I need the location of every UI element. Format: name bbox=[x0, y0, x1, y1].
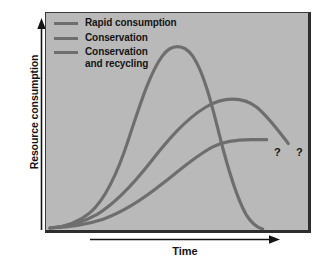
x-axis-arrow-icon bbox=[90, 234, 280, 245]
question-mark-conservation: ? bbox=[296, 146, 303, 158]
x-axis: Time bbox=[90, 234, 280, 264]
curve-rapid-consumption bbox=[50, 47, 263, 229]
legend-item-label: Conservation bbox=[85, 32, 148, 44]
legend-item-label: Rapid consumption bbox=[85, 17, 177, 29]
y-axis-title: Resource consumption bbox=[28, 6, 40, 218]
curve-conservation bbox=[50, 99, 288, 228]
legend-item-label: Conservation and recycling bbox=[85, 46, 148, 69]
legend-line-swatch-icon bbox=[54, 51, 78, 54]
legend: Rapid consumption Conservation Conservat… bbox=[54, 17, 224, 72]
legend-line-swatch-icon bbox=[54, 37, 78, 40]
question-mark-recycling: ? bbox=[274, 146, 281, 158]
plot-area: Rapid consumption Conservation Conservat… bbox=[45, 12, 311, 233]
legend-item-rapid-consumption: Rapid consumption bbox=[54, 17, 224, 29]
legend-item-conservation: Conservation bbox=[54, 32, 224, 44]
x-axis-title: Time bbox=[90, 245, 280, 257]
y-axis: Resource consumption bbox=[0, 18, 45, 230]
chart-figure: Resource consumption Rapid consumption C… bbox=[0, 0, 329, 266]
legend-item-conservation-and-recycling: Conservation and recycling bbox=[54, 46, 224, 69]
legend-line-swatch-icon bbox=[54, 22, 78, 25]
